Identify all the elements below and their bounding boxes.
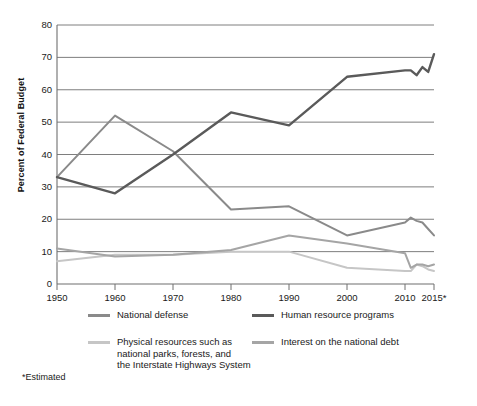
legend-item[interactable]: Interest on the national debt (252, 336, 399, 348)
series-line (57, 54, 434, 193)
footnote: *Estimated (22, 372, 66, 382)
legend-label: Physical resources such as national park… (117, 336, 251, 371)
legend-item[interactable]: Human resource programs (252, 309, 394, 321)
legend-color-swatch (252, 314, 274, 317)
series-line (57, 116, 434, 236)
legend-color-swatch (88, 314, 110, 317)
chart-figure: Percent of Federal Budget 01020304050607… (0, 0, 477, 406)
series-line (57, 252, 434, 271)
legend-color-swatch (88, 341, 110, 344)
legend-label: Human resource programs (281, 309, 394, 321)
legend-item[interactable]: National defense (88, 309, 188, 321)
legend-label: Interest on the national debt (281, 336, 399, 348)
legend-label: National defense (117, 309, 188, 321)
legend-item[interactable]: Physical resources such as national park… (88, 336, 251, 371)
legend-color-swatch (252, 341, 274, 344)
